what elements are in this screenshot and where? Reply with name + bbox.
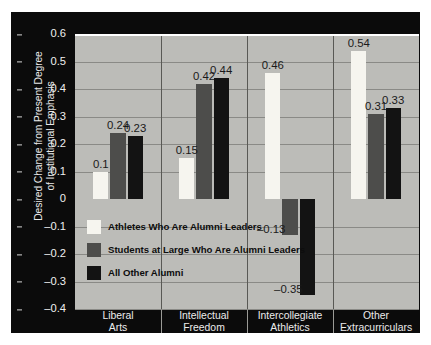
x-axis-category-label: OtherExtracurriculars — [333, 310, 419, 333]
x-axis-categories: LiberalArtsIntellectualFreedomIntercolle… — [75, 310, 419, 333]
legend-swatch — [87, 266, 101, 280]
y-axis-tick-mark — [17, 199, 22, 200]
legend-label: All Other Alumni — [108, 268, 183, 278]
x-axis-category-label: IntellectualFreedom — [161, 310, 247, 333]
x-axis-divider — [247, 310, 248, 333]
y-axis-tick-label: –0.2 — [22, 248, 66, 259]
bar — [214, 78, 229, 199]
zero-baseline — [75, 34, 419, 36]
legend-label: Athletes Who Are Alumni Leaders — [108, 222, 262, 232]
y-axis-tick-label: 0.1 — [22, 166, 66, 177]
y-axis-tick-label: –0.4 — [22, 303, 66, 314]
legend-swatch — [87, 243, 101, 257]
bar — [93, 172, 108, 200]
y-axis-tick-label: 0.6 — [22, 28, 66, 39]
y-axis-tick-mark — [17, 116, 22, 117]
bar — [351, 51, 366, 200]
y-axis-tick-label: 0.2 — [22, 138, 66, 149]
y-axis-tick-label: 0.4 — [22, 83, 66, 94]
legend-swatch — [87, 220, 101, 234]
x-axis-divider — [333, 310, 334, 333]
y-axis-tick-mark — [17, 171, 22, 172]
y-axis-tick-label: 0 — [22, 193, 66, 204]
y-axis-tick-label: 0.5 — [22, 56, 66, 67]
y-axis-tick-mark — [17, 34, 22, 35]
y-axis-tick-mark — [17, 226, 22, 227]
x-axis-divider — [161, 310, 162, 333]
y-axis-tick-label: –0.3 — [22, 276, 66, 287]
bar-value-label: 0.23 — [118, 123, 152, 134]
bar — [128, 136, 143, 199]
bar — [265, 73, 280, 200]
y-axis-tick-mark — [17, 309, 22, 310]
bar-value-label: 0.44 — [204, 65, 238, 76]
y-axis-tick-mark — [17, 89, 22, 90]
plot-area: 0.10.240.230.150.420.440.46–0.13–0.350.5… — [75, 34, 419, 309]
bar — [386, 108, 401, 199]
bar — [368, 114, 383, 199]
bar — [196, 84, 211, 200]
bar-value-label: 0.15 — [170, 145, 204, 156]
x-axis-category-line: Intercollegiate — [258, 310, 323, 322]
chart-legend: Athletes Who Are Alumni LeadersStudents … — [87, 220, 347, 289]
y-axis-tick-mark — [17, 61, 22, 62]
y-axis-tick-mark — [17, 144, 22, 145]
y-axis-title: Desired Change from Present Degree of In… — [30, 18, 60, 254]
x-axis-category-line: Extracurriculars — [340, 322, 412, 333]
x-axis-category-line: Liberal — [102, 310, 133, 322]
y-axis-tick-label: –0.1 — [22, 221, 66, 232]
bar-value-label: 0.1 — [84, 159, 118, 170]
bar — [179, 158, 194, 199]
x-axis-category-line: Athletics — [270, 322, 309, 333]
y-axis-tick-mark — [17, 281, 22, 282]
bar-value-label: 0.54 — [342, 38, 376, 49]
legend-item: Athletes Who Are Alumni Leaders — [87, 220, 347, 234]
bar-value-label: 0.33 — [376, 95, 410, 106]
bar-value-label: 0.46 — [256, 60, 290, 71]
legend-item: All Other Alumni — [87, 266, 347, 280]
y-axis-tick-mark — [17, 254, 22, 255]
x-axis-category-line: Arts — [109, 322, 127, 333]
x-axis-category-line: Other — [363, 310, 389, 322]
legend-label: Students at Large Who Are Alumni Leaders — [108, 245, 305, 255]
x-axis-category-line: Intellectual — [179, 310, 229, 322]
x-axis-category-line: Freedom — [183, 322, 225, 333]
chart-figure: Desired Change from Present Degree of In… — [11, 12, 420, 333]
x-axis-category-label: LiberalArts — [75, 310, 161, 333]
y-axis-tick-label: 0.3 — [22, 111, 66, 122]
legend-item: Students at Large Who Are Alumni Leaders — [87, 243, 347, 257]
x-axis-category-label: IntercollegiateAthletics — [247, 310, 333, 333]
